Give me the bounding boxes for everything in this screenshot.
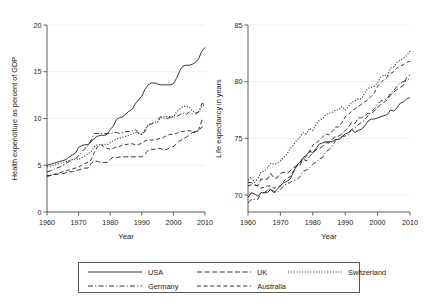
svg-text:70: 70 bbox=[235, 191, 243, 200]
svg-text:75: 75 bbox=[235, 134, 243, 143]
legend-swatch-germany bbox=[87, 282, 143, 290]
svg-text:15: 15 bbox=[34, 67, 42, 76]
svg-text:80: 80 bbox=[235, 77, 243, 86]
legend-label-switzerland: Switzerland bbox=[348, 268, 386, 277]
figure-root: 05101520196019701980199020002010YearHeal… bbox=[0, 0, 425, 306]
legend-item-usa[interactable]: USA bbox=[79, 265, 196, 279]
svg-text:0: 0 bbox=[38, 208, 42, 217]
svg-text:1960: 1960 bbox=[240, 218, 256, 227]
svg-text:2010: 2010 bbox=[197, 218, 213, 227]
legend-swatch-switzerland bbox=[287, 268, 343, 276]
legend-swatch-uk bbox=[196, 268, 252, 276]
legend-item-switzerland[interactable]: Switzerland bbox=[287, 265, 359, 279]
svg-text:Year: Year bbox=[118, 232, 134, 241]
svg-text:5: 5 bbox=[38, 161, 42, 170]
legend-swatch-australia bbox=[196, 282, 252, 290]
svg-text:1980: 1980 bbox=[102, 218, 118, 227]
legend-label-germany: Germany bbox=[148, 282, 178, 291]
svg-text:1980: 1980 bbox=[305, 218, 321, 227]
chart-legend: USA UK Switzerland Germany bbox=[78, 262, 360, 293]
svg-text:1990: 1990 bbox=[337, 218, 353, 227]
svg-text:1960: 1960 bbox=[39, 218, 55, 227]
legend-label-australia: Australia bbox=[257, 282, 286, 291]
legend-row-top: USA UK Switzerland bbox=[79, 265, 359, 279]
legend-item-germany[interactable]: Germany bbox=[79, 279, 196, 293]
chart-panel-life-expectancy: 70758085196019701980199020002010YearLife… bbox=[212, 0, 425, 252]
legend-swatch-usa bbox=[87, 268, 143, 276]
svg-text:2000: 2000 bbox=[370, 218, 386, 227]
svg-text:2010: 2010 bbox=[402, 218, 418, 227]
legend-row-bottom: Germany Australia bbox=[79, 279, 359, 293]
svg-text:1970: 1970 bbox=[272, 218, 288, 227]
svg-text:2000: 2000 bbox=[165, 218, 181, 227]
svg-text:1970: 1970 bbox=[71, 218, 87, 227]
svg-text:1990: 1990 bbox=[134, 218, 150, 227]
svg-text:Life expectancy in years: Life expectancy in years bbox=[214, 79, 223, 158]
svg-text:85: 85 bbox=[235, 21, 243, 30]
chart-panel-health-expenditure: 05101520196019701980199020002010YearHeal… bbox=[0, 0, 212, 252]
svg-text:Health expenditure as percent: Health expenditure as percent of GDP bbox=[10, 57, 19, 180]
legend-item-spacer bbox=[288, 279, 359, 293]
legend-label-uk: UK bbox=[257, 268, 267, 277]
legend-label-usa: USA bbox=[148, 268, 163, 277]
svg-text:Year: Year bbox=[321, 232, 337, 241]
life-expectancy-plot: 70758085196019701980199020002010YearLife… bbox=[212, 0, 425, 252]
health-expenditure-plot: 05101520196019701980199020002010YearHeal… bbox=[0, 0, 212, 252]
legend-item-australia[interactable]: Australia bbox=[196, 279, 287, 293]
legend-item-uk[interactable]: UK bbox=[196, 265, 287, 279]
svg-text:20: 20 bbox=[34, 21, 42, 30]
svg-text:10: 10 bbox=[34, 114, 42, 123]
